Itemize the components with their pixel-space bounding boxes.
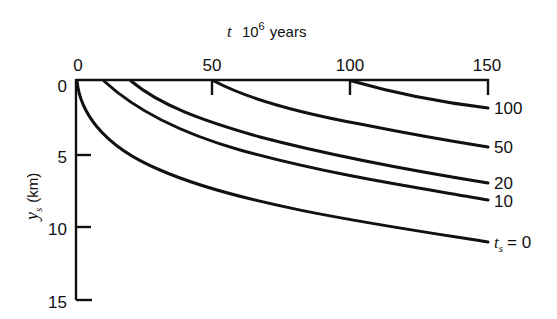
curve-label-100: 100 — [494, 99, 522, 118]
y-tick-label: 10 — [48, 220, 67, 239]
x-tick-label: 50 — [203, 56, 222, 75]
curve-label-50: 50 — [494, 138, 513, 157]
curve-label-ts-0: ts= 0 — [494, 233, 531, 254]
y-axis-title: ys(km) — [22, 173, 44, 222]
curve-label-10: 10 — [494, 192, 513, 211]
curve-label-20: 20 — [494, 174, 513, 193]
chart: 0 50 100 150 0 5 10 15 t 106years ys(km)… — [0, 0, 557, 319]
x-tick-label: 0 — [73, 56, 82, 75]
y-tick-label: 0 — [58, 77, 67, 96]
x-tick-label: 100 — [336, 56, 364, 75]
x-tick-label: 150 — [473, 56, 501, 75]
y-tick-label: 5 — [58, 148, 67, 167]
y-tick-labels: 0 5 10 15 — [48, 77, 67, 312]
curve-ts-100 — [352, 81, 488, 108]
x-axis-title: t 106years — [227, 20, 306, 41]
curve-labels: 100 50 20 10 ts= 0 — [494, 99, 531, 254]
curves — [77, 81, 488, 242]
x-tick-labels: 0 50 100 150 — [73, 56, 501, 75]
y-tick-label: 15 — [48, 293, 67, 312]
